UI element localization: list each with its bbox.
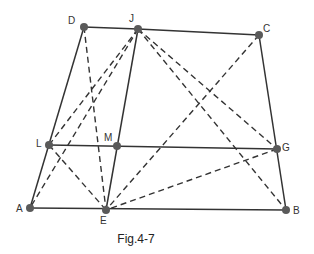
point-label-D: D: [68, 16, 75, 26]
point-label-J: J: [129, 14, 134, 24]
point-D: [80, 23, 88, 31]
point-label-A: A: [16, 204, 23, 214]
dashed-segment-JL: [49, 29, 138, 145]
solid-segment-LG: [49, 145, 277, 149]
solid-segment-DJ: [84, 27, 138, 29]
point-L: [45, 141, 53, 149]
dashed-segment-LE: [49, 145, 106, 210]
solid-segment-CB: [259, 35, 286, 210]
dashed-segment-JG: [138, 29, 277, 149]
dashed-segment-GE: [106, 149, 277, 210]
point-G: [273, 145, 281, 153]
point-A: [26, 204, 34, 212]
point-E: [102, 206, 110, 214]
point-J: [134, 25, 142, 33]
point-label-E: E: [100, 216, 107, 226]
solid-segment-JC: [138, 29, 259, 35]
point-label-G: G: [282, 143, 290, 153]
dashed-segment-JB: [138, 29, 286, 210]
point-M: [113, 142, 121, 150]
point-label-C: C: [263, 24, 270, 34]
point-label-B: B: [293, 206, 300, 216]
dashed-segment-DE: [84, 27, 106, 210]
solid-segment-DA: [30, 27, 84, 208]
dashed-segment-CE: [106, 35, 259, 210]
point-label-M: M: [104, 133, 112, 143]
point-B: [282, 206, 290, 214]
figure-caption: Fig.4-7: [0, 232, 272, 246]
solid-segment-AB: [30, 208, 286, 210]
point-label-L: L: [36, 139, 42, 149]
geometry-diagram: [0, 0, 314, 254]
point-C: [255, 31, 263, 39]
